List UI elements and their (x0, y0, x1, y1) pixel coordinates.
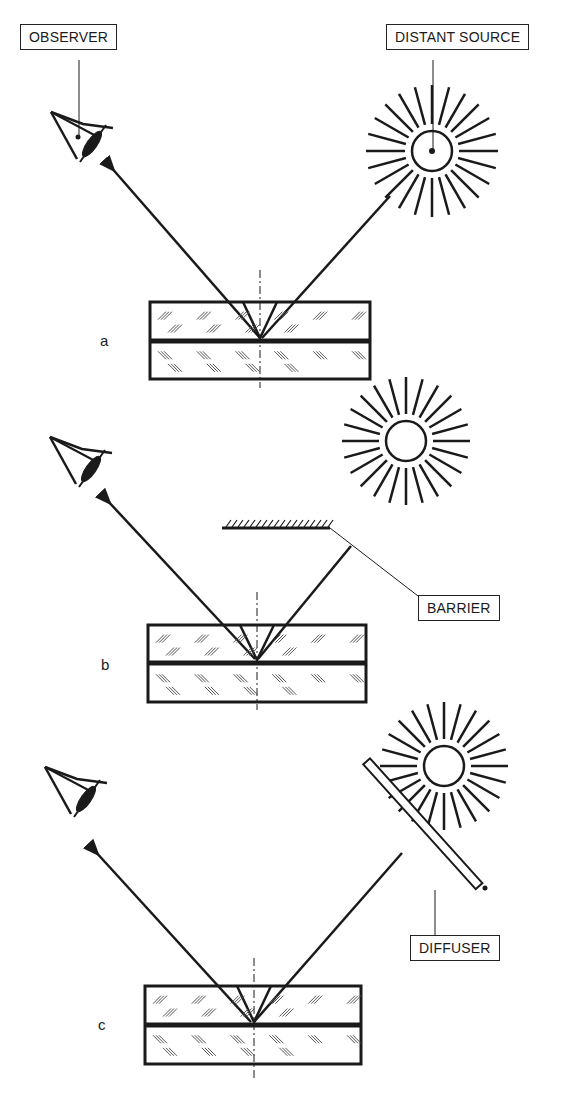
panel-b (50, 377, 470, 710)
panel-letter-a: a (100, 332, 108, 349)
sun-icon (380, 702, 508, 830)
panel-a (51, 60, 498, 388)
sun-icon (342, 377, 470, 505)
diffuser-label: DIFFUSER (410, 935, 500, 961)
diffuser (363, 758, 482, 889)
panel-letter-c: c (98, 1016, 106, 1033)
incident-ray (258, 546, 351, 659)
panel-letter-b: b (101, 656, 109, 673)
panel-c (45, 702, 508, 1078)
distant-source-label: DISTANT SOURCE (386, 24, 529, 50)
laminated-glass (148, 592, 366, 710)
barrier-label: BARRIER (418, 595, 500, 621)
eye-icon (51, 112, 113, 162)
eye-icon (45, 767, 107, 817)
reflected-ray (106, 499, 255, 659)
eye-icon (50, 437, 112, 487)
laminated-glass (145, 958, 361, 1078)
reflected-ray (110, 166, 260, 338)
observer-label: OBSERVER (20, 24, 117, 50)
barrier (222, 520, 333, 528)
barrier-leader-line (330, 528, 418, 596)
sun-icon (366, 85, 498, 217)
reflected-ray (94, 850, 251, 1022)
laminated-glass (150, 270, 370, 388)
